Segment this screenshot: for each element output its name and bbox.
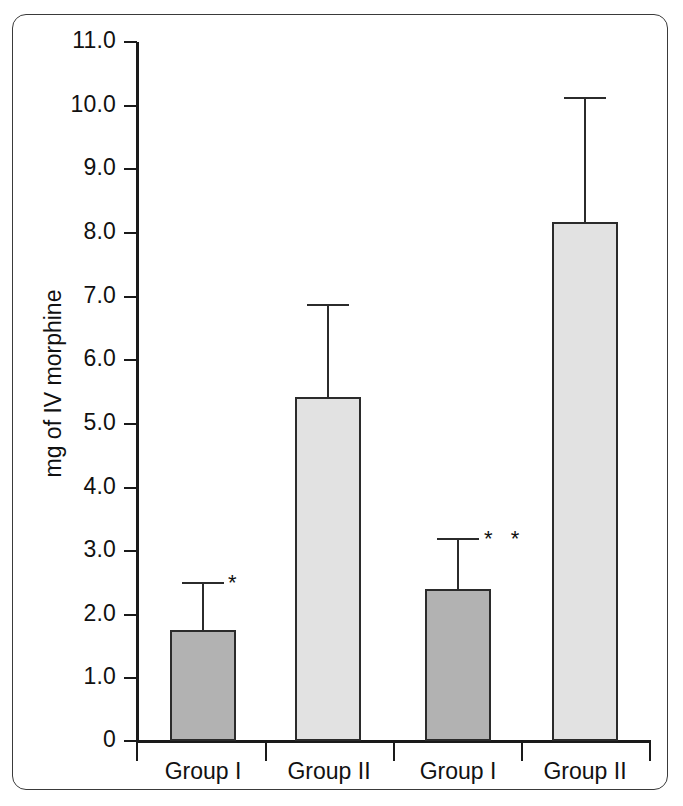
y-tick-6 [124,359,137,361]
y-tick-10 [124,105,137,107]
y-tick-5 [124,423,137,425]
y-axis-line [136,42,139,743]
y-tick-label-8: 8.0 [44,220,116,244]
error-bar-stem-1 [202,582,204,630]
error-bar-stem-2 [327,304,329,397]
significance-marker-bar-3: * * [484,528,525,550]
y-tick-label-10: 10.0 [44,93,116,117]
y-tick-label-0: 0 [44,728,116,752]
bar-group-i-1 [170,630,236,741]
bar-group-ii-1 [295,397,361,741]
significance-marker-bar-1: * [228,572,243,594]
y-tick-label-2: 2.0 [44,602,116,626]
y-tick-3 [124,550,137,552]
error-bar-cap-2 [307,304,349,306]
error-bar-stem-3 [457,538,459,589]
y-tick-4 [124,487,137,489]
y-tick-1 [124,677,137,679]
y-tick-2 [124,614,137,616]
y-tick-7 [124,296,137,298]
error-bar-cap-4 [564,97,606,99]
y-tick-label-3: 3.0 [44,538,116,562]
y-tick-11 [124,41,137,43]
error-bar-stem-4 [584,97,586,222]
error-bar-cap-3 [437,538,479,540]
y-axis-title: mg of IV morphine [40,279,67,489]
y-tick-label-9: 9.0 [44,156,116,180]
y-tick-8 [124,232,137,234]
bar-group-ii-2 [552,222,618,741]
bar-group-i-2 [425,589,491,741]
x-label-group-ii-2: Group II [500,758,670,786]
bar-chart-plot: 11.0 10.0 9.0 8.0 7.0 6.0 5.0 4.0 3.0 2.… [0,0,683,806]
figure-container: 11.0 10.0 9.0 8.0 7.0 6.0 5.0 4.0 3.0 2.… [0,0,683,806]
y-tick-label-1: 1.0 [44,665,116,689]
y-tick-9 [124,168,137,170]
error-bar-cap-1 [182,582,224,584]
y-tick-label-11: 11.0 [44,29,116,53]
